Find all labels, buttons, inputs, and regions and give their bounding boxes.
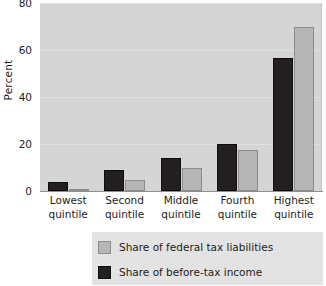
- bar-federal-tax-liabilities: [182, 168, 202, 192]
- legend-swatch: [98, 266, 111, 279]
- x-axis-tick-label-line: Second: [96, 194, 152, 208]
- x-axis-tick-label: Secondquintile: [96, 194, 152, 221]
- x-axis-tick-label-line: quintile: [266, 208, 322, 222]
- bar-before-tax-income: [161, 158, 181, 191]
- x-axis-tick-label: Lowestquintile: [40, 194, 96, 221]
- bar-before-tax-income: [273, 58, 293, 191]
- bar-group: [161, 3, 202, 191]
- x-axis-tick-label-line: quintile: [153, 208, 209, 222]
- y-axis-tick-label: 40: [19, 92, 32, 102]
- y-axis-tick-label: 0: [25, 186, 32, 196]
- bar-federal-tax-liabilities: [238, 150, 258, 191]
- legend-swatch: [98, 241, 111, 254]
- bar-before-tax-income: [48, 182, 68, 191]
- y-axis-tick-label: 80: [19, 0, 32, 8]
- bar-group: [217, 3, 258, 191]
- legend-label: Share of before-tax income: [119, 265, 262, 279]
- bar-group: [104, 3, 145, 191]
- x-axis-tick-label-line: quintile: [209, 208, 265, 222]
- y-axis-tick-label: 60: [19, 45, 32, 55]
- bar-federal-tax-liabilities: [125, 180, 145, 191]
- legend-label: Share of federal tax liabilities: [119, 240, 273, 254]
- x-axis-tick-label-line: quintile: [40, 208, 96, 222]
- bar-before-tax-income: [104, 170, 124, 191]
- x-axis-tick-label-line: Fourth: [209, 194, 265, 208]
- x-axis-tick-label: Middlequintile: [153, 194, 209, 221]
- bar-before-tax-income: [217, 144, 237, 191]
- bar-group: [48, 3, 89, 191]
- x-axis-tick-label-line: Middle: [153, 194, 209, 208]
- y-axis-tick-label: 20: [19, 139, 32, 149]
- x-axis-tick-label-line: quintile: [96, 208, 152, 222]
- x-axis-tick-label-line: Lowest: [40, 194, 96, 208]
- bar-group: [273, 3, 314, 191]
- x-axis-tick-labels: LowestquintileSecondquintileMiddlequinti…: [40, 194, 322, 224]
- bar-chart-figure: Percent 020406080 LowestquintileSecondqu…: [0, 0, 326, 286]
- y-axis-tick-labels: 020406080: [0, 0, 36, 195]
- chart-legend: Share of federal tax liabilitiesShare of…: [92, 232, 323, 285]
- x-axis-tick-label: Highestquintile: [266, 194, 322, 221]
- bar-federal-tax-liabilities: [294, 27, 314, 192]
- x-axis-tick-label-line: Highest: [266, 194, 322, 208]
- x-axis-baseline: [40, 191, 323, 192]
- x-axis-tick-label: Fourthquintile: [209, 194, 265, 221]
- plot-area: [40, 3, 322, 191]
